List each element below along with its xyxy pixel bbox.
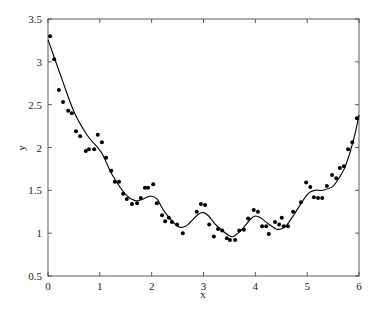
data-point <box>130 202 134 206</box>
data-point <box>87 147 91 151</box>
data-point <box>220 229 224 233</box>
x-tick-label: 6 <box>356 280 362 292</box>
data-point <box>256 210 260 214</box>
data-point <box>92 147 96 151</box>
data-point <box>167 216 171 220</box>
data-point <box>61 100 65 104</box>
data-point <box>203 203 207 207</box>
data-point <box>355 116 359 120</box>
data-point <box>207 223 211 227</box>
data-point <box>57 88 61 92</box>
y-tick-label: 3.5 <box>28 13 42 25</box>
data-point <box>216 227 220 231</box>
data-point <box>242 228 246 232</box>
data-point <box>299 200 303 204</box>
data-point <box>334 176 338 180</box>
y-axis-ticks: 0.511.522.533.5 <box>28 13 359 282</box>
data-point <box>267 232 271 236</box>
x-tick-label: 2 <box>149 280 155 292</box>
data-point <box>96 133 100 137</box>
data-point <box>325 184 329 188</box>
data-point <box>139 196 143 200</box>
chart: 0123456 0.511.522.533.5 x y <box>0 0 380 312</box>
data-point <box>228 238 232 242</box>
data-point <box>155 201 159 205</box>
data-point <box>280 216 284 220</box>
y-tick-label: 1.5 <box>28 184 42 196</box>
data-point <box>212 235 216 239</box>
data-point <box>146 186 150 190</box>
y-axis-label: y <box>15 145 27 151</box>
data-point <box>74 129 78 133</box>
data-point <box>48 34 52 38</box>
x-axis-ticks: 0123456 <box>45 19 362 292</box>
data-point <box>151 182 155 186</box>
data-point <box>277 223 281 227</box>
data-point <box>109 169 113 173</box>
data-point <box>237 229 241 233</box>
data-point <box>338 166 342 170</box>
data-point <box>121 192 125 196</box>
y-tick-label: 2.5 <box>28 99 42 111</box>
data-point <box>320 196 324 200</box>
data-point <box>199 202 203 206</box>
data-point <box>291 210 295 214</box>
scatter-points <box>48 34 359 242</box>
x-axis-label: x <box>200 288 206 300</box>
data-point <box>135 201 139 205</box>
data-point <box>66 109 70 113</box>
data-point <box>252 208 256 212</box>
y-tick-label: 2 <box>37 142 43 154</box>
data-point <box>163 219 167 223</box>
y-tick-label: 0.5 <box>28 270 42 282</box>
x-tick-label: 0 <box>45 280 51 292</box>
data-point <box>246 217 250 221</box>
data-point <box>52 57 56 61</box>
data-point <box>346 147 350 151</box>
data-point <box>160 213 164 217</box>
data-point <box>175 223 179 227</box>
data-point <box>282 224 286 228</box>
data-point <box>100 140 104 144</box>
x-tick-label: 5 <box>304 280 310 292</box>
data-point <box>312 195 316 199</box>
data-point <box>350 140 354 144</box>
data-point <box>330 173 334 177</box>
y-tick-label: 3 <box>37 56 43 68</box>
data-point <box>342 164 346 168</box>
data-point <box>304 181 308 185</box>
data-point <box>273 220 277 224</box>
data-point <box>316 196 320 200</box>
data-point <box>195 210 199 214</box>
y-tick-label: 1 <box>37 227 43 239</box>
data-point <box>260 224 264 228</box>
data-point <box>170 220 174 224</box>
fit-curve <box>48 40 359 237</box>
data-point <box>125 197 129 201</box>
data-point <box>308 185 312 189</box>
data-point <box>286 224 290 228</box>
data-point <box>104 156 108 160</box>
data-point <box>233 238 237 242</box>
data-point <box>78 134 82 138</box>
data-point <box>264 224 268 228</box>
data-point <box>70 111 74 115</box>
x-tick-label: 1 <box>97 280 103 292</box>
data-point <box>117 180 121 184</box>
x-tick-label: 4 <box>253 280 259 292</box>
data-point <box>113 180 117 184</box>
data-point <box>181 231 185 235</box>
